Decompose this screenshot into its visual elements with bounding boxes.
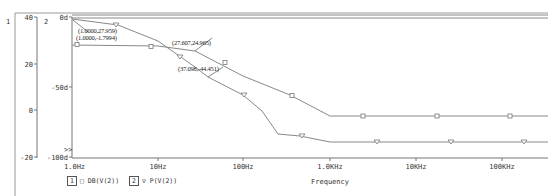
legend-label: P(V(2)) xyxy=(150,177,177,185)
svg-text:100KHz: 100KHz xyxy=(489,163,514,171)
svg-text:10KHz: 10KHz xyxy=(405,163,426,171)
x-axis-label: Frequency xyxy=(311,178,349,186)
svg-text:40: 40 xyxy=(25,14,33,22)
y1-ticks: 40 20 0 -20 xyxy=(20,14,37,162)
svg-text:0d: 0d xyxy=(60,14,68,22)
legend-axis-id: 1 xyxy=(67,176,77,186)
triangle-marker-icon: ▽ xyxy=(142,177,146,185)
annotation-2: (1.0000,-1.7994) xyxy=(76,34,117,42)
svg-text:0: 0 xyxy=(29,107,33,115)
series-db-markers xyxy=(75,43,512,119)
y2-axis-id: 2 xyxy=(44,18,48,26)
legend-axis-id: 2 xyxy=(129,176,139,186)
svg-text:10Hz: 10Hz xyxy=(150,163,167,171)
square-marker-icon: □ xyxy=(80,177,84,185)
svg-text:1.0Hz: 1.0Hz xyxy=(64,163,85,171)
annotation-4: (37.098,-44.451) xyxy=(178,65,223,77)
svg-text:-20: -20 xyxy=(20,154,33,162)
y2-ticks: 0d -50d -100d xyxy=(47,14,72,162)
chart-area: 1 40 20 0 -20 2 0d -50d -100d >> 1.0Hz 1… xyxy=(0,0,560,196)
svg-text:-100d: -100d xyxy=(47,154,68,162)
x-ticks: 1.0Hz 10Hz 100Hz 1.0KHz 10KHz 100KHz xyxy=(64,158,515,171)
legend: 1□ DB(V(2)) 2▽ P(V(2)) xyxy=(67,176,183,186)
svg-text:100Hz: 100Hz xyxy=(232,163,253,171)
y1-axis-id: 1 xyxy=(6,18,10,26)
legend-item-db[interactable]: 1□ DB(V(2)) xyxy=(67,177,123,185)
svg-text:(1.0000,-1.7994): (1.0000,-1.7994) xyxy=(76,34,117,42)
legend-item-phase[interactable]: 2▽ P(V(2)) xyxy=(129,177,177,185)
svg-text:-50d: -50d xyxy=(51,84,68,92)
svg-text:1.0KHz: 1.0KHz xyxy=(317,163,342,171)
overflow-marker: >> xyxy=(64,146,72,154)
svg-text:(37.098,-44.451): (37.098,-44.451) xyxy=(178,65,219,73)
series-p-v2 xyxy=(72,19,548,142)
series-db-v2 xyxy=(72,45,548,116)
legend-label: DB(V(2)) xyxy=(88,177,119,185)
svg-text:20: 20 xyxy=(25,61,33,69)
svg-text:(27.607,24.965): (27.607,24.965) xyxy=(172,39,211,47)
